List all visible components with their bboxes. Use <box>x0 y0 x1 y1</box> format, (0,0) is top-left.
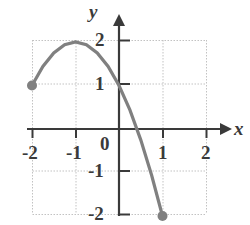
y-tick-label-neg2: -2 <box>88 204 104 223</box>
y-tick-label-neg1: -1 <box>88 161 104 180</box>
endpoint-dot-right <box>158 211 168 221</box>
graph-canvas <box>0 0 250 225</box>
x-tick-label-2: 2 <box>201 143 211 162</box>
x-axis-arrowhead <box>220 123 232 135</box>
y-axis-label: y <box>89 2 97 21</box>
origin-label: 0 <box>100 134 110 153</box>
y-tick-label-2: 2 <box>95 30 105 49</box>
y-tick-label-1: 1 <box>95 74 105 93</box>
y-axis <box>113 14 130 216</box>
x-tick-label-neg2: -2 <box>22 143 38 162</box>
endpoint-dot-left <box>27 81 37 91</box>
x-tick-label-neg1: -1 <box>66 143 82 162</box>
x-tick-label-1: 1 <box>158 143 168 162</box>
x-axis-label: x <box>234 119 244 138</box>
x-axis <box>27 123 232 138</box>
y-axis-arrowhead <box>113 14 125 26</box>
